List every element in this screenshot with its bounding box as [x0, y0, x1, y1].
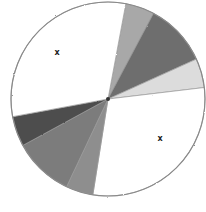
slice-marker-x: x [54, 49, 59, 57]
slice-marker-x: x [157, 135, 162, 143]
pie-chart [0, 0, 206, 212]
pie-center-dot [106, 97, 110, 101]
pie-slice-3 [93, 88, 205, 196]
